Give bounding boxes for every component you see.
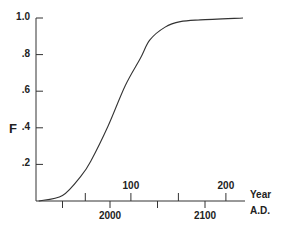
y-tick-label: 1.0 xyxy=(4,12,30,22)
y-tick-label: .2 xyxy=(4,158,30,168)
chart-canvas xyxy=(0,0,283,227)
x-tick-label-top: 100 xyxy=(123,181,140,191)
x-tick-label-top: 200 xyxy=(218,181,235,191)
x-tick-label-bottom: 2100 xyxy=(194,211,216,221)
y-tick-label: .4 xyxy=(4,122,30,132)
y-axis-label: F xyxy=(9,122,17,135)
x-axis-label-ad: A.D. xyxy=(250,206,270,216)
axes xyxy=(36,18,245,208)
f-curve xyxy=(39,18,243,201)
y-tick-label: .6 xyxy=(4,85,30,95)
y-tick-label: .8 xyxy=(4,49,30,59)
x-axis-label-year: Year xyxy=(250,190,271,200)
x-tick-label-bottom: 2000 xyxy=(99,211,121,221)
